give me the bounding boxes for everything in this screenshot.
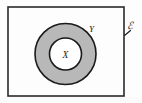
inner-set-label-x: X [62,50,70,60]
set-diagram-canvas: X Y ℰ [0,0,142,103]
set-diagram-figure: X Y ℰ [0,0,142,103]
universal-set-label: ℰ [127,20,134,31]
